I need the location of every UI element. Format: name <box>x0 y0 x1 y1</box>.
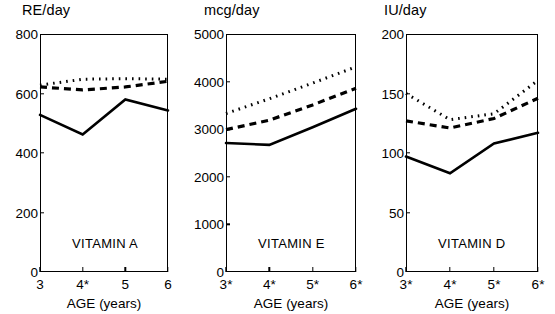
x-tick-label: 6* <box>350 277 363 292</box>
chart-panel-vitamin-e: mcg/day 010002000300040005000 VITAMIN E … <box>182 0 367 314</box>
panel-tag-label: VITAMIN A <box>72 236 138 251</box>
x-tick-mark <box>449 267 450 272</box>
x-tick-mark <box>355 267 356 272</box>
x-tick-label: 3* <box>220 277 233 292</box>
series-line-solid <box>40 99 168 134</box>
x-tick-mark <box>82 267 83 272</box>
chart-panel-vitamin-a: RE/day 0200400600800 VITAMIN A AGE (year… <box>0 0 185 314</box>
panel-tag-label: VITAMIN E <box>258 236 325 251</box>
x-tick-label: 5* <box>306 277 319 292</box>
y-tick-mark <box>226 81 230 82</box>
y-tick-mark <box>406 93 410 94</box>
x-tick-label: 3* <box>400 277 413 292</box>
y-tick-mark <box>40 212 44 213</box>
series-line-dotted <box>226 67 356 114</box>
y-tick-mark <box>226 176 230 177</box>
x-tick-mark <box>537 267 538 272</box>
x-tick-label: 3 <box>36 277 44 292</box>
x-tick-label: 4* <box>444 277 457 292</box>
x-tick-mark <box>125 267 126 272</box>
x-tick-mark <box>269 267 270 272</box>
x-tick-mark <box>39 267 40 272</box>
y-tick-mark <box>40 152 44 153</box>
x-tick-mark <box>225 267 226 272</box>
x-axis-title: AGE (years) <box>254 296 328 311</box>
x-tick-label: 4* <box>76 277 89 292</box>
series-line-dashed <box>406 98 538 128</box>
x-tick-label: 6 <box>164 277 172 292</box>
x-tick-label: 6* <box>532 277 545 292</box>
x-tick-mark <box>312 267 313 272</box>
panel-tag-label: VITAMIN D <box>438 236 505 251</box>
series-line-dashed <box>40 81 168 90</box>
y-tick-mark <box>226 224 230 225</box>
x-axis-title: AGE (years) <box>67 296 141 311</box>
series-line-solid <box>406 133 538 173</box>
x-tick-label: 4* <box>263 277 276 292</box>
series-layer <box>182 0 367 314</box>
series-layer <box>362 0 552 314</box>
y-tick-mark <box>406 152 410 153</box>
x-tick-mark <box>493 267 494 272</box>
y-tick-mark <box>40 93 44 94</box>
chart-panel-vitamin-d: IU/day 050100150200 VITAMIN D AGE (years… <box>362 0 547 314</box>
x-tick-label: 5 <box>122 277 130 292</box>
y-tick-mark <box>406 212 410 213</box>
y-tick-mark <box>226 128 230 129</box>
vitamin-intake-figure: RE/day 0200400600800 VITAMIN A AGE (year… <box>0 0 555 314</box>
x-axis-title: AGE (years) <box>435 296 509 311</box>
x-tick-mark <box>405 267 406 272</box>
series-line-dotted <box>406 80 538 119</box>
x-tick-mark <box>167 267 168 272</box>
series-layer <box>0 0 185 314</box>
series-line-dashed <box>226 88 356 129</box>
x-tick-label: 5* <box>488 277 501 292</box>
